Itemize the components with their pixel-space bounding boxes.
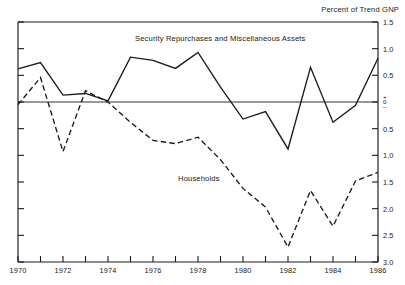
y-axis-tick-label: 1.0	[383, 44, 394, 53]
y-axis-tick-label: 2.0	[383, 204, 394, 213]
x-axis-tick-label: 1974	[100, 266, 117, 275]
chart-root: Percent of Trend GNP Security Repurchase…	[0, 0, 405, 285]
y-axis-tick-label: 1.5	[383, 178, 394, 187]
x-axis-tick-label: 1982	[280, 266, 297, 275]
plot-frame	[18, 22, 378, 262]
x-axis-tick-label: 1978	[190, 266, 207, 275]
y-axis-tick-label: 1.0	[383, 151, 394, 160]
y-axis-tick-label: 2.5	[383, 231, 394, 240]
y-axis-tick-label: 0.5	[383, 71, 394, 80]
data-series-lines	[18, 52, 378, 247]
y-axis-zero-label: +0–	[383, 94, 387, 110]
y-axis-tick-label: 0.5	[383, 124, 394, 133]
series-line-households	[18, 77, 378, 247]
x-axis-tick-label: 1972	[55, 266, 72, 275]
x-axis-tick-label: 1980	[235, 266, 252, 275]
series-line-security-repurchases	[18, 52, 378, 149]
x-axis-tick-label: 1976	[145, 266, 162, 275]
y-axis-tick-label: 1.5	[383, 18, 394, 27]
axis-ticks	[18, 22, 378, 262]
chart-plot-area	[0, 0, 405, 285]
x-axis-tick-label: 1986	[370, 266, 387, 275]
x-axis-tick-label: 1970	[10, 266, 27, 275]
x-axis-tick-label: 1984	[325, 266, 342, 275]
